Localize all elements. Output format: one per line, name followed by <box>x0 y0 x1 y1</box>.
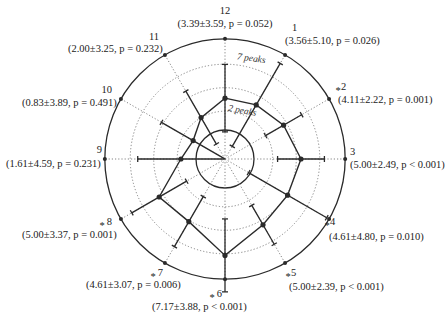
direction-number-6: 6 <box>217 288 222 299</box>
direction-number-7: 7 <box>158 267 163 278</box>
data-point-9 <box>178 156 183 161</box>
direction-number-4: 4 <box>330 216 336 227</box>
direction-number-3: 3 <box>350 146 355 157</box>
data-point-5 <box>260 222 265 227</box>
outer-marker-3 <box>343 157 347 161</box>
outer-marker-12 <box>223 37 227 41</box>
outer-marker-7 <box>163 261 167 265</box>
outer-marker-10 <box>119 97 123 101</box>
ring-label-7-peaks: 7 peaks <box>236 51 266 65</box>
direction-stats-10: (0.83±3.89, p = 0.491) <box>22 97 117 109</box>
direction-number-10: 10 <box>102 84 113 95</box>
direction-stats-4: (4.61±4.80, p = 0.010) <box>329 231 424 243</box>
data-point-6 <box>222 253 227 258</box>
significance-marker-8: * <box>99 220 104 231</box>
data-point-12 <box>222 96 227 101</box>
outer-marker-11 <box>163 53 167 57</box>
direction-number-2: 2 <box>341 81 346 92</box>
significance-marker-7: * <box>150 271 155 282</box>
direction-number-8: 8 <box>107 216 112 227</box>
polar-peaks-chart: 7 peaks2 peaks 12(3.39±3.59, p = 0.052)1… <box>0 0 448 316</box>
direction-stats-6: (7.17±3.88, p < 0.001) <box>152 301 247 313</box>
data-point-8 <box>157 194 162 199</box>
data-point-4 <box>285 193 290 198</box>
significance-marker-6: * <box>209 292 214 303</box>
data-point-11 <box>199 115 204 120</box>
direction-number-9: 9 <box>97 144 102 155</box>
direction-number-1: 1 <box>292 22 297 33</box>
direction-number-12: 12 <box>220 5 231 16</box>
outer-marker-8 <box>119 217 123 221</box>
data-point-10 <box>191 138 196 143</box>
direction-stats-1: (3.56±5.10, p = 0.026) <box>285 35 380 47</box>
data-point-7 <box>186 219 191 224</box>
data-point-1 <box>254 102 259 107</box>
outer-marker-2 <box>327 97 331 101</box>
direction-stats-7: (4.61±3.07, p = 0.006) <box>86 279 181 291</box>
direction-number-5: 5 <box>291 267 296 278</box>
outer-marker-9 <box>103 157 107 161</box>
significance-marker-2: * <box>335 85 340 96</box>
direction-stats-3: (5.00±2.49, p < 0.001) <box>350 159 445 171</box>
significance-marker-5: * <box>285 271 290 282</box>
direction-stats-2: (4.11±2.22, p = 0.001) <box>338 94 433 106</box>
direction-stats-5: (5.00±2.39, p < 0.001) <box>289 281 384 293</box>
direction-stats-12: (3.39±3.59, p = 0.052) <box>178 18 273 30</box>
error-bars <box>130 62 328 292</box>
outer-marker-5 <box>283 261 287 265</box>
outer-marker-1 <box>283 53 287 57</box>
direction-stats-11: (2.00±3.25, p = 0.232) <box>68 43 163 55</box>
data-point-2 <box>281 123 286 128</box>
direction-stats-9: (1.61±4.59, p = 0.231) <box>6 158 101 170</box>
data-series <box>157 96 304 258</box>
significance-marker-4: * <box>324 220 329 231</box>
data-point-3 <box>298 156 303 161</box>
direction-number-11: 11 <box>149 31 159 42</box>
